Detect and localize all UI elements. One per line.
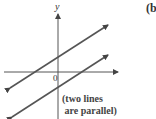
origin-label: 0 — [53, 73, 58, 83]
y-axis-label: y — [55, 2, 59, 12]
part-label: (b — [146, 3, 156, 13]
note-line-2: are parallel) — [62, 105, 117, 117]
parallel-lines-diagram: y 0 (b (two lines are parallel) — [0, 0, 156, 119]
parallel-note: (two lines are parallel) — [62, 93, 117, 117]
upper-line — [10, 25, 108, 88]
note-line-1: (two lines — [62, 93, 117, 105]
